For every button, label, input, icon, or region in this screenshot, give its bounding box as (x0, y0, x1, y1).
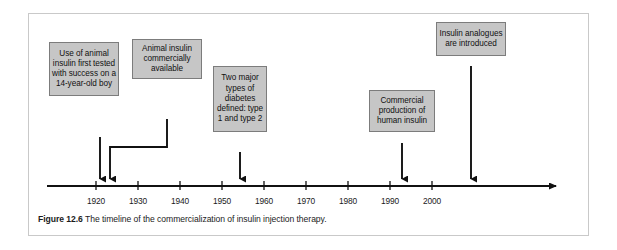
event-label-1922: Use of animal insulin first tested with … (52, 49, 116, 90)
tick-label-1930: 1930 (118, 196, 158, 206)
event-label-1981: Commercial production of human insulin (372, 96, 432, 127)
event-box-1923[interactable]: Animal insulin commercially available (132, 39, 202, 79)
tick-label-1970: 1970 (286, 196, 326, 206)
timeline-axis (47, 181, 556, 190)
figure-container: Use of animal insulin first tested with … (0, 0, 617, 250)
figure-caption-label: Figure 12.6 (38, 214, 83, 224)
tick-label-1980: 1980 (328, 196, 368, 206)
timeline-graphic (0, 0, 617, 250)
event-box-1951[interactable]: Two major types of diabetes defined: typ… (213, 66, 267, 132)
event-box-1997[interactable]: Insulin analogues are introduced (436, 22, 506, 56)
tick-label-1950: 1950 (202, 196, 242, 206)
tick-label-1990: 1990 (370, 196, 410, 206)
tick-label-1940: 1940 (160, 196, 200, 206)
figure-caption: Figure 12.6 The timeline of the commerci… (38, 214, 558, 225)
event-box-1981[interactable]: Commercial production of human insulin (369, 90, 435, 132)
figure-caption-text: The timeline of the commercialization of… (85, 214, 327, 224)
connector-event-2 (110, 119, 167, 179)
tick-label-1960: 1960 (244, 196, 284, 206)
event-box-1922[interactable]: Use of animal insulin first tested with … (49, 42, 119, 96)
tick-label-1920: 1920 (76, 196, 116, 206)
tick-label-2000: 2000 (412, 196, 452, 206)
event-label-1951: Two major types of diabetes defined: typ… (216, 73, 264, 124)
event-label-1997: Insulin analogues are introduced (439, 29, 503, 49)
event-label-1923: Animal insulin commercially available (135, 44, 199, 75)
